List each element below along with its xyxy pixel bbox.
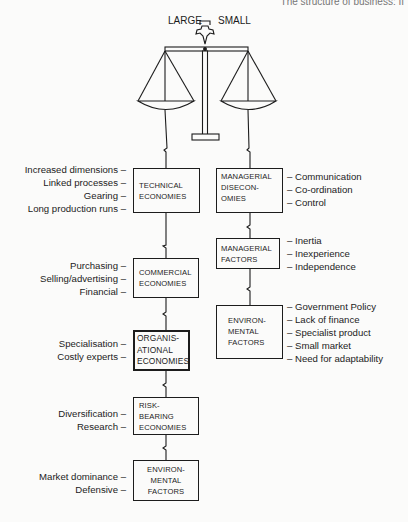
box-title-line: FACTORS bbox=[228, 337, 282, 348]
list-item: Diversification – bbox=[58, 407, 126, 420]
environmental-factors-left-items: Market dominance – Defensive – bbox=[39, 470, 126, 496]
list-item: – Inertia bbox=[287, 234, 356, 247]
list-item: – Co-ordination bbox=[287, 183, 362, 196]
box-title-line: ENVIRON- bbox=[228, 315, 282, 326]
box-title-line: DISECON- bbox=[221, 182, 278, 193]
box-environmental-factors-left: ENVIRON- MENTAL FACTORS bbox=[133, 460, 199, 501]
box-title-line: MENTAL bbox=[134, 475, 198, 486]
box-title-line: TECHNICAL bbox=[139, 180, 194, 191]
box-title-line: ECONOMIES bbox=[137, 356, 186, 368]
list-item: Linked processes – bbox=[25, 176, 126, 189]
list-item: Selling/advertising – bbox=[40, 272, 126, 285]
list-item: Increased dimensions – bbox=[25, 163, 126, 176]
box-title-line: MENTAL bbox=[228, 326, 282, 337]
commercial-economies-items: Purchasing – Selling/advertising – Finan… bbox=[40, 259, 126, 298]
box-title-line: ENVIRON- bbox=[134, 464, 198, 475]
list-item: Costly experts – bbox=[57, 350, 126, 363]
box-managerial-factors: MANAGERIAL FACTORS bbox=[216, 238, 280, 269]
box-title-line: ECONOMIES bbox=[139, 278, 193, 289]
list-item: – Control bbox=[287, 196, 362, 209]
box-title-line: MANAGERIAL bbox=[221, 243, 275, 254]
list-item: – Small market bbox=[287, 339, 383, 352]
box-title-line: ECONOMIES bbox=[139, 422, 193, 433]
list-item: – Communication bbox=[287, 170, 362, 183]
box-risk-bearing-economies: RISK- BEARING ECONOMIES bbox=[133, 397, 199, 435]
box-title-line: ATIONAL bbox=[137, 345, 186, 357]
box-title-line: FACTORS bbox=[134, 486, 198, 497]
box-title-line: COMMERCIAL bbox=[139, 267, 193, 278]
list-item: – Specialist product bbox=[287, 326, 383, 339]
box-environmental-factors-right: ENVIRON- MENTAL FACTORS bbox=[216, 305, 283, 359]
scale-label-large: LARGE bbox=[168, 15, 202, 26]
list-item: Financial – bbox=[40, 285, 126, 298]
box-title-line: MANAGERIAL bbox=[221, 171, 278, 182]
list-item: Market dominance – bbox=[39, 470, 126, 483]
box-technical-economies: TECHNICAL ECONOMIES bbox=[133, 168, 200, 213]
box-managerial-diseconomies: MANAGERIAL DISECON- OMIES bbox=[216, 168, 283, 213]
list-item: Specialisation – bbox=[57, 337, 126, 350]
box-title-line: RISK- bbox=[139, 400, 193, 411]
list-item: Long production runs – bbox=[25, 202, 126, 215]
managerial-factors-items: – Inertia – Inexperience – Independence bbox=[287, 234, 356, 273]
box-title-line: BEARING bbox=[139, 411, 193, 422]
box-title-line: ORGANIS- bbox=[137, 333, 186, 345]
organisational-economies-items: Specialisation – Costly experts – bbox=[57, 337, 126, 363]
list-item: Purchasing – bbox=[40, 259, 126, 272]
list-item: Defensive – bbox=[39, 483, 126, 496]
list-item: Research – bbox=[58, 420, 126, 433]
managerial-diseconomies-items: – Communication – Co-ordination – Contro… bbox=[287, 170, 362, 209]
list-item: Gearing – bbox=[25, 189, 126, 202]
environmental-factors-right-items: – Government Policy – Lack of finance – … bbox=[287, 300, 383, 365]
box-title-line: OMIES bbox=[221, 193, 278, 204]
scale-label-small: SMALL bbox=[218, 15, 251, 26]
box-title-line: FACTORS bbox=[221, 254, 275, 265]
list-item: – Inexperience bbox=[287, 247, 356, 260]
list-item: – Need for adaptability bbox=[287, 352, 383, 365]
list-item: – Lack of finance bbox=[287, 313, 383, 326]
box-commercial-economies: COMMERCIAL ECONOMIES bbox=[133, 258, 199, 298]
risk-bearing-economies-items: Diversification – Research – bbox=[58, 407, 126, 433]
box-organisational-economies: ORGANIS- ATIONAL ECONOMIES bbox=[133, 330, 190, 371]
technical-economies-items: Increased dimensions – Linked processes … bbox=[25, 163, 126, 215]
list-item: – Government Policy bbox=[287, 300, 383, 313]
box-title-line: ECONOMIES bbox=[139, 191, 194, 202]
list-item: – Independence bbox=[287, 260, 356, 273]
